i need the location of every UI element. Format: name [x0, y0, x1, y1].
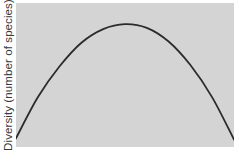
chart-svg: [16, 3, 234, 147]
plot-area: [16, 3, 234, 147]
y-axis-label: Diversity (number of species): [0, 0, 16, 150]
y-axis-label-text: Diversity (number of species): [2, 0, 14, 151]
